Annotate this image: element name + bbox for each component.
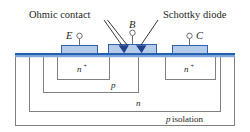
- p-base-label: p: [110, 80, 116, 90]
- collector-node: [187, 33, 192, 38]
- terminal-label-emitter: E: [65, 30, 73, 41]
- emitter-node: [77, 33, 82, 38]
- terminal-nodes: [77, 30, 192, 38]
- base-node: [130, 30, 135, 35]
- terminal-label-base: B: [129, 19, 136, 30]
- emitter-nplus-base: n: [77, 64, 82, 74]
- p-isolation-label: p isolation: [165, 114, 203, 124]
- collector-nplus-base: n: [184, 64, 189, 74]
- schottky-diode-label: Schottky diode: [163, 9, 227, 20]
- device-cross-section-diagram: Ohmic contact Schottky diode E B C n + n…: [0, 0, 250, 132]
- ohmic-leader-a: [104, 20, 122, 46]
- n-collector-label: n: [136, 98, 141, 108]
- terminal-label-collector: C: [196, 30, 204, 41]
- emitter-nplus-sup: +: [83, 62, 87, 69]
- emitter-contact-metal: [62, 46, 98, 54]
- schottky-leader: [141, 20, 158, 45]
- emitter-nplus-label: n +: [77, 62, 87, 74]
- p-isolation-italic: p: [165, 114, 171, 124]
- p-isolation-text: isolation: [172, 114, 203, 124]
- ohmic-contact-label: Ohmic contact: [29, 9, 91, 20]
- figure-canvas: Ohmic contact Schottky diode E B C n + n…: [0, 0, 250, 132]
- collector-nplus-sup: +: [190, 62, 194, 69]
- collector-contact-metal: [173, 46, 208, 54]
- base-contact-metal: [109, 45, 157, 54]
- ohmic-leader-b: [108, 20, 128, 46]
- collector-nplus-label: n +: [184, 62, 194, 74]
